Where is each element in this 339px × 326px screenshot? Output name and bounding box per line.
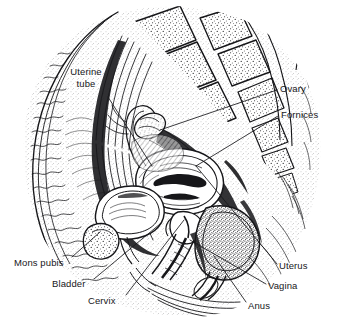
label-bladder: Bladder bbox=[52, 278, 85, 290]
label-anus: Anus bbox=[248, 300, 270, 312]
anatomy-illustration bbox=[0, 0, 339, 326]
label-uterus: Uterus bbox=[279, 260, 308, 272]
broad-ligament bbox=[132, 135, 184, 172]
label-uterine-tube-line2: tube bbox=[77, 78, 96, 89]
label-vagina: Vagina bbox=[268, 280, 297, 292]
label-uterine-tube: Uterinetube bbox=[62, 66, 110, 89]
label-ovary: Ovary bbox=[280, 83, 306, 95]
label-cervix: Cervix bbox=[88, 295, 116, 307]
label-mons-pubis: Mons pubis bbox=[14, 257, 64, 269]
anatomy-figure: Uterinetube Ovary Fornices Mons pubis Bl… bbox=[0, 0, 339, 326]
pubic-symphysis bbox=[83, 224, 119, 260]
label-fornices: Fornices bbox=[281, 109, 318, 121]
label-uterine-tube-line1: Uterine bbox=[70, 66, 101, 77]
